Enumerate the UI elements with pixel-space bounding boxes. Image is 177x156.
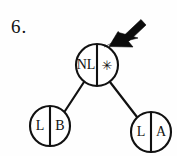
pointer-arrow-head bbox=[109, 20, 146, 48]
node-right-child-left-label: L bbox=[137, 124, 146, 139]
node-right-child-right-label: A bbox=[156, 124, 167, 139]
pointer-arrow bbox=[104, 20, 146, 48]
star-glyph: ✳ bbox=[102, 58, 113, 73]
node-left-child[interactable]: L B bbox=[30, 106, 70, 146]
tree-diagram: NL ✳ L B L A bbox=[0, 0, 177, 156]
node-left-child-left-label: L bbox=[36, 118, 45, 133]
node-right-child[interactable]: L A bbox=[131, 112, 171, 152]
node-left-child-right-label: B bbox=[55, 118, 64, 133]
figure-container: 6. NL ✳ L B L A bbox=[0, 0, 177, 156]
node-root-left-label: NL bbox=[77, 57, 96, 72]
edge-root-to-left-child bbox=[65, 82, 84, 111]
node-root[interactable]: NL ✳ bbox=[76, 44, 118, 86]
edge-root-to-right-child bbox=[110, 82, 137, 117]
